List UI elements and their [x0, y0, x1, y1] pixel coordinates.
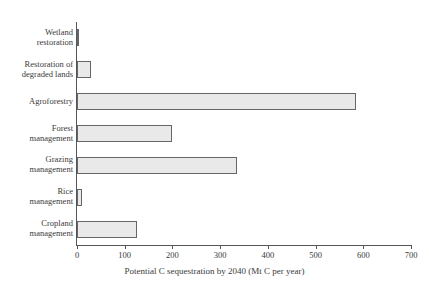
x-tick-mark: [125, 245, 126, 249]
x-tick-mark: [316, 245, 317, 249]
category-label: Grazingmanagement: [0, 154, 73, 174]
x-axis-spine: [77, 245, 411, 246]
bar-chart: WetlandrestorationRestoration ofdegraded…: [0, 0, 429, 291]
category-label-line: Agroforestry: [0, 96, 73, 106]
category-label-line: restoration: [0, 37, 73, 47]
category-label-line: Cropland: [0, 218, 73, 228]
bar-row: [77, 125, 411, 142]
category-label-line: Restoration of: [0, 59, 73, 69]
bar[interactable]: [77, 157, 237, 174]
bar-row: [77, 61, 411, 78]
x-tick-mark: [411, 245, 412, 249]
category-label-line: management: [0, 133, 73, 143]
category-label-line: management: [0, 196, 73, 206]
x-tick-mark: [172, 245, 173, 249]
category-label-line: Forest: [0, 123, 73, 133]
x-tick-mark: [77, 245, 78, 249]
category-label: Wetlandrestoration: [0, 27, 73, 47]
bar-row: [77, 29, 411, 46]
bar[interactable]: [77, 93, 356, 110]
plot-area: [77, 22, 411, 245]
x-tick-label: 400: [261, 250, 274, 260]
bar[interactable]: [77, 61, 91, 78]
bar[interactable]: [77, 125, 172, 142]
bar[interactable]: [77, 29, 79, 46]
category-label: Agroforestry: [0, 96, 73, 106]
x-tick-mark: [220, 245, 221, 249]
x-tick-label: 200: [166, 250, 179, 260]
bar[interactable]: [77, 221, 137, 238]
category-label-line: Rice: [0, 186, 73, 196]
category-label: Ricemanagement: [0, 186, 73, 206]
category-label: Restoration ofdegraded lands: [0, 59, 73, 79]
x-tick-label: 600: [357, 250, 370, 260]
bar-row: [77, 221, 411, 238]
bar-row: [77, 157, 411, 174]
category-label-line: Wetland: [0, 27, 73, 37]
category-label-line: Grazing: [0, 154, 73, 164]
bar-row: [77, 93, 411, 110]
category-label-line: management: [0, 164, 73, 174]
x-tick-mark: [363, 245, 364, 249]
category-label: Forestmanagement: [0, 123, 73, 143]
x-tick-mark: [268, 245, 269, 249]
x-tick-label: 100: [118, 250, 131, 260]
x-tick-label: 0: [75, 250, 79, 260]
bar[interactable]: [77, 189, 82, 206]
x-tick-label: 700: [405, 250, 418, 260]
category-label: Croplandmanagement: [0, 218, 73, 238]
x-tick-label: 300: [214, 250, 227, 260]
category-label-line: degraded lands: [0, 69, 73, 79]
category-label-line: management: [0, 228, 73, 238]
bar-row: [77, 189, 411, 206]
x-tick-label: 500: [309, 250, 322, 260]
x-axis-title: Potential C sequestration by 2040 (Mt C …: [0, 266, 429, 277]
